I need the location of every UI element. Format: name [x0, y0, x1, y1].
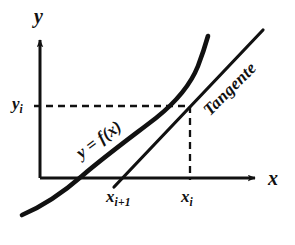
tangent-line	[114, 30, 263, 187]
x-axis-label: x	[268, 168, 278, 188]
y-value-base: y	[12, 94, 20, 113]
figure-canvas	[0, 0, 295, 245]
newton-method-figure: y x yi xi xi+1 y = f(x) Tangente	[0, 0, 295, 245]
y-value-tick-label: yi	[12, 95, 23, 115]
x-next-tick-label: xi+1	[106, 188, 131, 208]
x-next-subscript: i+1	[115, 196, 131, 209]
x-current-subscript: i	[190, 196, 193, 209]
y-value-subscript: i	[20, 103, 23, 116]
x-current-base: x	[181, 187, 190, 206]
x-current-tick-label: xi	[181, 188, 193, 208]
y-axis-label: y	[34, 6, 43, 26]
x-next-base: x	[106, 187, 115, 206]
